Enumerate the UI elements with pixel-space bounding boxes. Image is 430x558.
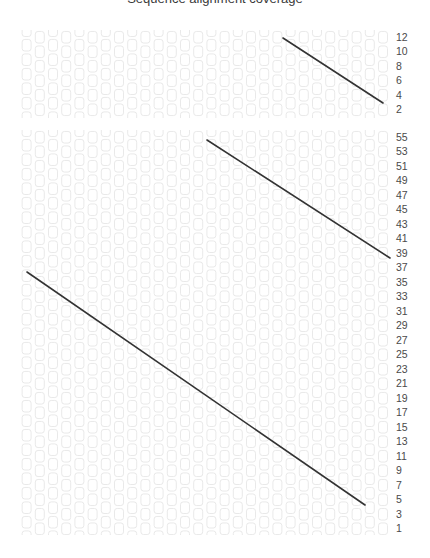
axis-tick-label: 55	[396, 132, 424, 143]
axis-tick-label: 29	[396, 320, 424, 331]
top-panel-cell-grid	[0, 30, 430, 118]
axis-tick-label: 53	[396, 146, 424, 157]
axis-tick-label: 9	[396, 465, 424, 476]
axis-tick-label: 49	[396, 175, 424, 186]
axis-tick-label: 12	[396, 32, 424, 43]
axis-tick-label: 11	[396, 451, 424, 462]
figure-title-clipped: Sequence alignment coverage	[0, 0, 430, 9]
axis-tick-label: 8	[396, 61, 424, 72]
axis-tick-label: 43	[396, 219, 424, 230]
axis-tick-label: 25	[396, 349, 424, 360]
axis-tick-label: 23	[396, 364, 424, 375]
axis-tick-label: 47	[396, 190, 424, 201]
axis-tick-label: 10	[396, 46, 424, 57]
axis-tick-label: 15	[396, 422, 424, 433]
axis-tick-label: 21	[396, 378, 424, 389]
axis-tick-label: 13	[396, 436, 424, 447]
bottom-panel-cell-grid	[0, 130, 430, 535]
axis-tick-label: 6	[396, 75, 424, 86]
axis-tick-label: 3	[396, 509, 424, 520]
axis-tick-label: 17	[396, 407, 424, 418]
axis-tick-label: 41	[396, 233, 424, 244]
axis-tick-label: 37	[396, 262, 424, 273]
axis-tick-label: 1	[396, 523, 424, 534]
axis-tick-label: 2	[396, 104, 424, 115]
axis-tick-label: 7	[396, 480, 424, 491]
axis-tick-label: 45	[396, 204, 424, 215]
axis-tick-label: 4	[396, 90, 424, 101]
top-panel-axis-tick-labels: 12108642	[396, 30, 430, 118]
figure-title-text: Sequence alignment coverage	[0, 0, 430, 6]
axis-tick-label: 33	[396, 291, 424, 302]
axis-tick-label: 51	[396, 161, 424, 172]
axis-tick-label: 31	[396, 306, 424, 317]
axis-tick-label: 35	[396, 277, 424, 288]
plot-canvas: Sequence alignment coverage 12108642 555…	[0, 0, 430, 558]
axis-tick-label: 19	[396, 393, 424, 404]
axis-tick-label: 39	[396, 248, 424, 259]
bottom-panel-axis-tick-labels: 5553514947454341393735333129272523211917…	[396, 130, 430, 535]
axis-tick-label: 27	[396, 335, 424, 346]
bottom-panel: 5553514947454341393735333129272523211917…	[0, 130, 430, 535]
top-panel: 12108642	[0, 30, 430, 118]
axis-tick-label: 5	[396, 494, 424, 505]
